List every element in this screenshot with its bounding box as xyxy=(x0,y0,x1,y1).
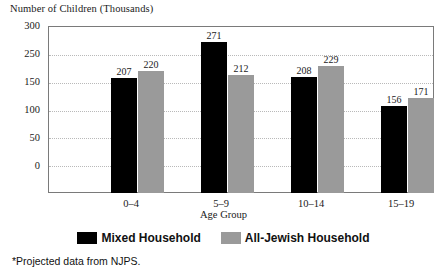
legend-swatch-icon xyxy=(221,232,241,244)
bar-group-3: 156 171 xyxy=(381,26,434,193)
y-tick-label-4: 50 xyxy=(4,132,40,143)
legend-item-all-jewish-household[interactable]: All-Jewish Household xyxy=(221,231,370,245)
bars-layer: 207 220 271 212 208 229 156 171 xyxy=(48,26,434,193)
bar-mixed[interactable] xyxy=(291,77,317,193)
bar-mixed[interactable] xyxy=(111,78,137,193)
legend-item-mixed-household[interactable]: Mixed Household xyxy=(77,231,200,245)
bar-group-0: 207 220 xyxy=(111,26,164,193)
legend-swatch-icon xyxy=(77,232,97,244)
bar-value-all-jewish: 171 xyxy=(401,86,441,97)
x-axis-title: Age Group xyxy=(0,209,447,220)
legend: Mixed Household All-Jewish Household xyxy=(0,231,447,245)
x-tick-label-2: 10–14 xyxy=(276,198,346,209)
legend-label: All-Jewish Household xyxy=(245,231,370,245)
bar-value-mixed: 271 xyxy=(194,30,234,41)
footnote: *Projected data from NJPS. xyxy=(12,255,140,267)
bar-value-all-jewish: 220 xyxy=(131,59,171,70)
bar-value-all-jewish: 229 xyxy=(311,54,351,65)
bar-value-all-jewish: 212 xyxy=(221,63,261,74)
y-tick-label-1: 250 xyxy=(4,48,40,59)
bar-group-1: 271 212 xyxy=(201,26,254,193)
y-tick-label-0: 300 xyxy=(4,20,40,31)
x-tick-label-1: 5–9 xyxy=(186,198,256,209)
legend-label: Mixed Household xyxy=(101,231,200,245)
bar-all-jewish[interactable] xyxy=(408,98,434,193)
y-tick-label-2: 150 xyxy=(4,76,40,87)
x-tick-label-0: 0–4 xyxy=(96,198,166,209)
y-axis-title: Number of Children (Thousands) xyxy=(10,3,153,14)
bar-all-jewish[interactable] xyxy=(138,71,164,193)
y-tick-label-3: 100 xyxy=(4,104,40,115)
x-tick-label-3: 15–19 xyxy=(366,198,436,209)
bar-mixed[interactable] xyxy=(381,106,407,193)
bar-all-jewish[interactable] xyxy=(228,75,254,193)
y-tick-label-5: 0 xyxy=(4,160,40,171)
bar-group-2: 208 229 xyxy=(291,26,344,193)
bar-all-jewish[interactable] xyxy=(318,66,344,193)
